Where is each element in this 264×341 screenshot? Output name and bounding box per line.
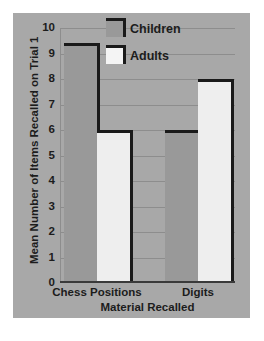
y-tick-label: 1 — [49, 252, 55, 264]
y-axis-title: Mean Number of Items Recalled on Trial 1 — [28, 54, 40, 264]
chart-legend: Children Adults — [106, 21, 181, 75]
x-axis-line — [60, 281, 235, 283]
bar-children-digits — [165, 133, 198, 283]
bar-children-chess-positions — [64, 46, 97, 283]
x-axis-title: Material Recalled — [60, 301, 235, 313]
legend-item-adults: Adults — [106, 48, 181, 64]
y-tick-label: 3 — [49, 201, 55, 213]
legend-swatch-adults — [106, 48, 123, 64]
y-tick-label: 5 — [49, 150, 55, 162]
y-tick-label: 9 — [49, 48, 55, 60]
x-tick-label: Digits — [182, 286, 214, 298]
y-tick-label: 8 — [49, 73, 55, 85]
chart-figure: Mean Number of Items Recalled on Trial 1… — [13, 13, 250, 318]
legend-item-children: Children — [106, 21, 181, 37]
bar-adults-chess-positions — [97, 133, 130, 283]
legend-label-adults: Adults — [130, 49, 169, 63]
y-tick-label: 6 — [49, 124, 55, 136]
x-tick-label: Chess Positions — [52, 286, 141, 298]
y-tick-label: 10 — [42, 22, 55, 34]
legend-swatch-children — [106, 21, 123, 37]
bar-adults-digits — [198, 82, 231, 283]
y-tick-label: 7 — [49, 99, 55, 111]
y-tick-label: 4 — [49, 175, 55, 187]
legend-label-children: Children — [130, 22, 181, 36]
y-tick-label: 2 — [49, 226, 55, 238]
